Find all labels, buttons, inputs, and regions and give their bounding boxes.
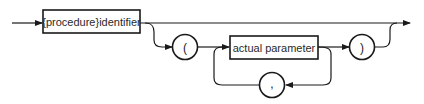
close-paren-label: ) [360,41,364,55]
comma-label: , [270,77,273,91]
close-paren-to-exit [375,23,397,47]
actual-parameter-label: actual parameter [233,42,316,54]
open-paren-node: ( [173,35,198,60]
comma-node: , [260,73,285,98]
actual-parameter-box: actual parameter [230,36,318,59]
syntax-diagram: {procedure}identifier ( actual parameter… [0,0,424,104]
open-paren-label: ( [183,41,187,55]
branch-to-open-paren [145,23,172,47]
procedure-identifier-label: {procedure}identifier [42,16,141,28]
procedure-identifier-box: {procedure}identifier [42,10,141,33]
close-paren-node: ) [350,35,375,60]
